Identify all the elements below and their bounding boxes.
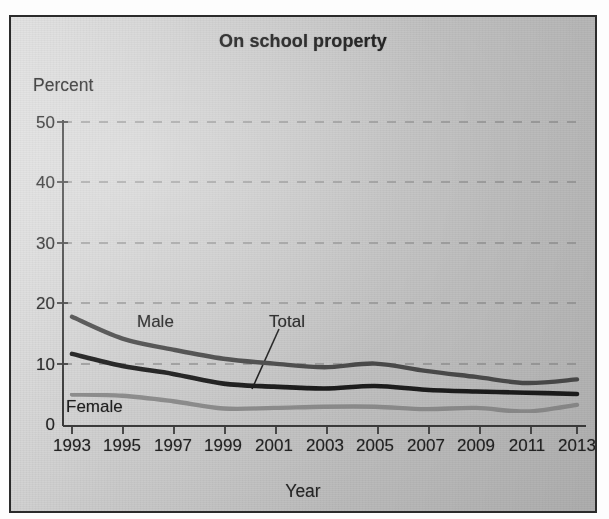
total-leader-line [252,329,279,389]
gridlines [63,122,581,364]
series-line-total [72,354,577,394]
chart-screenshot: On school property Percent Year 50 40 30… [0,0,609,519]
x-axis-ticks [72,426,577,434]
chart-panel: On school property Percent Year 50 40 30… [9,15,597,513]
plot-area [11,17,597,513]
series-line-female [72,395,577,412]
series-line-male [72,317,577,383]
